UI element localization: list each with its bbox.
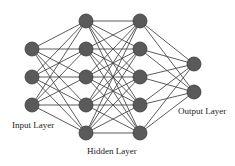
connections — [32, 21, 194, 133]
hidden1-node — [79, 98, 93, 112]
hidden1-node — [79, 42, 93, 56]
hidden1-node — [79, 14, 93, 28]
hidden-layer-label: Hidden Layer — [87, 146, 137, 156]
hidden1-node — [79, 126, 93, 140]
hidden2-node — [133, 42, 147, 56]
input-layer-label: Input Layer — [12, 120, 54, 130]
hidden1-node — [79, 70, 93, 84]
neural-network-diagram — [0, 0, 235, 166]
output-layer-label: Output Layer — [178, 106, 226, 116]
input-node — [25, 42, 39, 56]
output-node — [187, 85, 201, 99]
hidden2-node — [133, 70, 147, 84]
output-node — [187, 57, 201, 71]
hidden2-node — [133, 14, 147, 28]
input-node — [25, 98, 39, 112]
hidden2-node — [133, 98, 147, 112]
connection-edge — [32, 21, 86, 49]
connection-edge — [140, 49, 194, 64]
input-node — [25, 70, 39, 84]
connection-edge — [32, 21, 86, 105]
connection-edge — [140, 21, 194, 64]
hidden2-node — [133, 126, 147, 140]
